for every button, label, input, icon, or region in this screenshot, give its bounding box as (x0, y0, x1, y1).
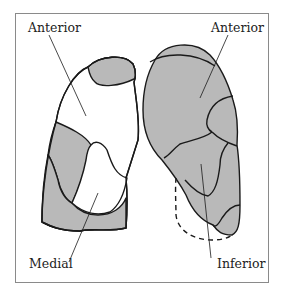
label-medial: Medial (29, 256, 73, 271)
lungs-diagram (0, 0, 283, 297)
label-left-anterior: Anterior (28, 20, 81, 35)
left-lung (42, 57, 139, 231)
right-lung (143, 45, 240, 240)
label-right-anterior: Anterior (211, 20, 264, 35)
label-inferior: Inferior (217, 256, 266, 271)
